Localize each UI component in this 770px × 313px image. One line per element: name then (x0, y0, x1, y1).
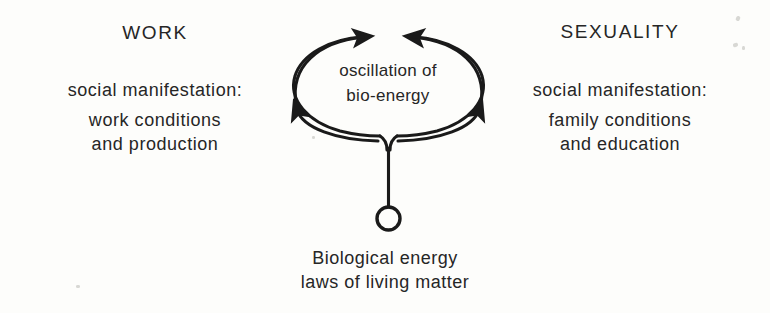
center-node-line-1: oscillation of (300, 61, 476, 81)
scan-speckle (312, 136, 315, 139)
stem-shoulder-right (390, 136, 397, 150)
scan-speckle (733, 42, 739, 47)
sexuality-heading: SEXUALITY (500, 21, 740, 43)
caption-line-1: Biological energy (265, 248, 505, 269)
arc-bottom-right-arrow (398, 110, 479, 141)
root-circle (377, 207, 400, 230)
work-line-2: work conditions (35, 110, 275, 131)
caption-line-2: laws of living matter (255, 272, 515, 293)
sexuality-line-3: and education (500, 134, 740, 155)
diagram-canvas: WORK social manifestation: work conditio… (0, 0, 770, 313)
work-line-3: and production (35, 134, 275, 155)
center-node-line-2: bio-energy (300, 86, 476, 106)
scan-speckle (76, 285, 80, 288)
sexuality-line-1: social manifestation: (490, 80, 750, 101)
scan-speckle (735, 15, 741, 21)
stem-shoulder-left (380, 136, 387, 150)
work-line-1: social manifestation: (5, 80, 305, 101)
scan-speckle (742, 46, 745, 50)
sexuality-line-2: family conditions (500, 110, 740, 131)
work-heading: WORK (35, 22, 275, 44)
arc-bottom-left-arrow (297, 110, 378, 141)
